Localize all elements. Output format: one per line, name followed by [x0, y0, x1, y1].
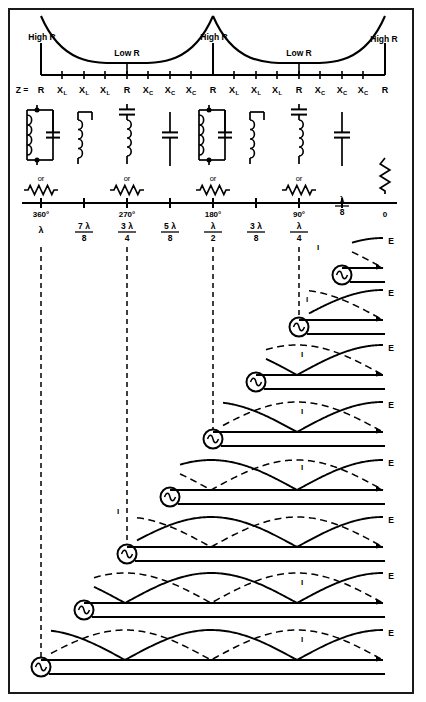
e-curve-label: E	[388, 628, 394, 638]
z-value-subscript: L	[63, 90, 67, 96]
e-curve-label: E	[388, 458, 394, 468]
low-r-label: Low R	[114, 48, 140, 58]
i-curve-label: I	[317, 243, 319, 252]
i-curve-label: I	[301, 463, 303, 472]
or-label: or	[124, 174, 131, 183]
i-curve-label: I	[301, 635, 303, 644]
i-curve-label: I	[301, 578, 303, 587]
wavelength-denominator: 4	[125, 233, 130, 243]
wavelength-numerator: 3 λ	[121, 221, 133, 231]
degree-tick-label: 360°	[33, 210, 50, 219]
z-value: R	[210, 85, 217, 95]
transmission-line-impedance-diagram: High RHigh RHigh RLow RLow R Z =RXLXLXLR…	[0, 0, 426, 702]
low-r-label: Low R	[286, 48, 312, 58]
wavelength-denominator: 2	[211, 233, 216, 243]
e-curve-label: E	[388, 343, 394, 353]
degree-tick-label: 0	[383, 210, 388, 219]
wavelength-label: λ	[38, 225, 43, 235]
wavelength-numerator: λ	[340, 195, 345, 205]
e-curve-label: E	[388, 400, 394, 410]
or-label: or	[38, 174, 45, 183]
z-value-subscript: L	[85, 90, 89, 96]
z-value-subscript: L	[278, 90, 282, 96]
degree-tick-label: 90°	[293, 210, 305, 219]
wavelength-denominator: 8	[82, 233, 87, 243]
z-value: R	[38, 85, 45, 95]
z-value: R	[296, 85, 303, 95]
high-r-label: High R	[200, 32, 227, 42]
e-curve-label: E	[388, 571, 394, 581]
wavelength-denominator: 8	[340, 207, 345, 217]
degree-tick-label: 180°	[205, 210, 222, 219]
figure-container: High RHigh RHigh RLow RLow R Z =RXLXLXLR…	[0, 0, 426, 702]
z-value-subscript: L	[106, 90, 110, 96]
i-curve-label: I	[117, 507, 119, 516]
wavelength-denominator: 8	[254, 233, 259, 243]
z-value: R	[124, 85, 131, 95]
high-r-label: High R	[370, 34, 397, 44]
wavelength-denominator: 4	[297, 233, 302, 243]
high-r-label: High R	[28, 32, 55, 42]
degree-tick-label: 270°	[119, 210, 136, 219]
z-value-subscript: L	[235, 90, 239, 96]
or-label: or	[296, 174, 303, 183]
wavelength-numerator: λ	[297, 221, 302, 231]
i-curve-label: I	[301, 407, 303, 416]
wavelength-numerator: λ	[211, 221, 216, 231]
z-row-prefix: Z =	[16, 85, 29, 95]
e-curve-label: E	[388, 288, 394, 298]
z-value: R	[382, 85, 389, 95]
or-label: or	[210, 174, 217, 183]
wavelength-numerator: 5 λ	[164, 221, 176, 231]
e-curve-label: E	[388, 236, 394, 246]
wavelength-numerator: 7 λ	[78, 221, 90, 231]
z-value-subscript: L	[257, 90, 261, 96]
i-curve-label: I	[306, 295, 308, 304]
wavelength-numerator: 3 λ	[250, 221, 262, 231]
wavelength-denominator: 8	[168, 233, 173, 243]
e-curve-label: E	[388, 515, 394, 525]
i-curve-label: I	[301, 350, 303, 359]
